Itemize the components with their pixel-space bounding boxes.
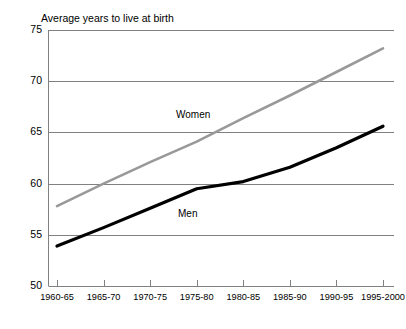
plot-area: [0, 0, 406, 329]
series-line-men: [57, 126, 383, 246]
y-axis-tick-label: 70: [18, 75, 42, 86]
y-axis-tick-label: 75: [18, 24, 42, 35]
series-label-men: Men: [178, 208, 197, 219]
x-axis-tick-label: 1965-70: [78, 292, 130, 303]
x-axis-tick-label: 1995-2000: [357, 292, 406, 303]
x-axis-tick-label: 1985-90: [264, 292, 316, 303]
life-expectancy-line-chart: Average years to live at birth 757065605…: [0, 0, 406, 329]
x-axis-tick-label: 1960-65: [31, 292, 83, 303]
xtick-marks-group: [58, 280, 384, 286]
y-axis-tick-label: 55: [18, 229, 42, 240]
x-axis-tick-label: 1990-95: [310, 292, 362, 303]
x-axis-tick-label: 1980-85: [217, 292, 269, 303]
series-label-women: Women: [176, 109, 210, 120]
x-axis-tick-label: 1975-80: [171, 292, 223, 303]
x-axis-tick-label: 1970-75: [124, 292, 176, 303]
series-line-women: [57, 48, 383, 206]
series-lines-group: [57, 48, 383, 246]
y-axis-tick-label: 65: [18, 126, 42, 137]
y-axis-tick-label: 60: [18, 178, 42, 189]
y-axis-tick-label: 50: [18, 280, 42, 291]
